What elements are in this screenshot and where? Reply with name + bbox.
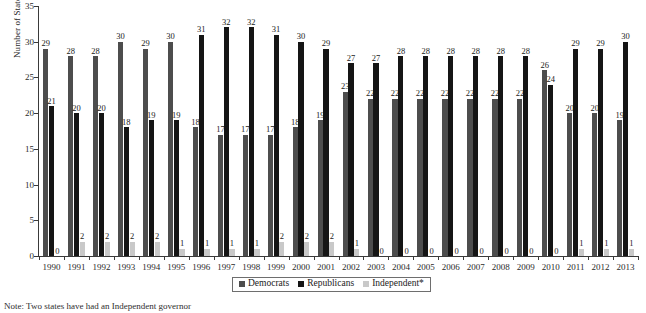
- bar-ind: 2: [279, 242, 284, 256]
- bar-ind: 2: [304, 242, 309, 256]
- legend-item-democrats: Democrats: [239, 279, 289, 289]
- bar-value-label: 26: [541, 61, 550, 70]
- bar-group: 29192: [139, 6, 164, 256]
- bar-value-label: 32: [222, 18, 231, 27]
- bar-value-label: 1: [629, 239, 633, 248]
- bar-group: 30191: [164, 6, 189, 256]
- bar-group: 28202: [64, 6, 89, 256]
- bar-value-label: 30: [166, 32, 175, 41]
- bar-rep: 24: [548, 85, 553, 256]
- bar-dem: 19: [617, 120, 622, 256]
- x-tick-label: 1997: [217, 263, 235, 272]
- x-tick-label: 2010: [542, 263, 560, 272]
- bar-value-label: 18: [122, 118, 131, 127]
- x-tick-mark: [388, 256, 389, 260]
- x-tick-label: 1996: [192, 263, 210, 272]
- bar-ind: 1: [254, 249, 259, 256]
- plot-area: Number of States 05101520253035 29210282…: [38, 6, 638, 262]
- bar-dem: 22: [442, 99, 447, 256]
- x-tick-label: 2004: [392, 263, 410, 272]
- x-tick-label: 2012: [592, 263, 610, 272]
- bar-value-label: 0: [504, 247, 508, 256]
- bar-value-label: 28: [472, 47, 481, 56]
- x-tick-label: 2001: [317, 263, 335, 272]
- bar-group: 20291: [588, 6, 613, 256]
- bar-value-label: 2: [130, 232, 134, 241]
- x-tick-mark: [613, 256, 614, 260]
- x-tick-label: 1992: [92, 263, 110, 272]
- bar-rep: 21: [49, 106, 54, 256]
- x-tick-label: 2009: [517, 263, 535, 272]
- bar-value-label: 0: [55, 247, 59, 256]
- bar-rep: 31: [199, 35, 204, 256]
- bar-value-label: 21: [47, 97, 56, 106]
- bar-value-label: 29: [596, 39, 605, 48]
- x-tick-label: 1995: [167, 263, 185, 272]
- bar-dem: 26: [542, 70, 547, 256]
- y-tick-label: 10: [16, 180, 34, 189]
- x-tick-mark: [538, 256, 539, 260]
- bar-rep: 32: [224, 27, 229, 256]
- bar-rep: 27: [348, 63, 353, 256]
- bar-ind: 2: [105, 242, 110, 256]
- bar-value-label: 31: [197, 25, 206, 34]
- legend-swatch-independent: [363, 281, 369, 287]
- bar-dem: 30: [118, 42, 123, 256]
- bar-dem: 29: [143, 49, 148, 256]
- bar-value-label: 28: [66, 47, 75, 56]
- bar-ind: 1: [179, 249, 184, 256]
- x-tick-label: 1991: [67, 263, 85, 272]
- legend-label-democrats: Democrats: [248, 279, 289, 289]
- bar-dem: 29: [43, 49, 48, 256]
- bar-rep: 30: [623, 42, 628, 256]
- x-tick-label: 1999: [267, 263, 285, 272]
- bar-dem: 22: [492, 99, 497, 256]
- bar-value-label: 0: [405, 247, 409, 256]
- bar-rep: 19: [174, 120, 179, 256]
- y-tick-label: 30: [16, 37, 34, 46]
- x-tick-mark: [114, 256, 115, 260]
- x-tick-mark: [588, 256, 589, 260]
- x-tick-mark: [214, 256, 215, 260]
- y-tick-label: 35: [16, 2, 34, 11]
- bar-rep: 28: [523, 56, 528, 256]
- x-tick-mark: [239, 256, 240, 260]
- bar-value-label: 2: [80, 232, 84, 241]
- x-tick-label: 2003: [367, 263, 385, 272]
- bar-group: 18302: [289, 6, 314, 256]
- bar-value-label: 0: [479, 247, 483, 256]
- x-tick-mark: [488, 256, 489, 260]
- bar-dem: 17: [268, 135, 273, 256]
- x-tick-mark: [438, 256, 439, 260]
- x-tick-label: 2007: [467, 263, 485, 272]
- bar-rep: 32: [249, 27, 254, 256]
- x-tick-label: 2011: [567, 263, 585, 272]
- chart-legend: Democrats Republicans Independent*: [232, 277, 431, 292]
- bar-group: 23271: [339, 6, 364, 256]
- bar-dem: 22: [517, 99, 522, 256]
- bar-group: 20291: [563, 6, 588, 256]
- x-tick-label: 2013: [617, 263, 635, 272]
- x-tick-mark: [289, 256, 290, 260]
- bar-value-label: 28: [91, 47, 100, 56]
- bar-ind: 1: [579, 249, 584, 256]
- bar-value-label: 30: [621, 32, 630, 41]
- bar-value-label: 29: [141, 39, 150, 48]
- bar-rep: 29: [573, 49, 578, 256]
- x-tick-mark: [189, 256, 190, 260]
- bar-rep: 28: [398, 56, 403, 256]
- bar-rep: 28: [473, 56, 478, 256]
- bar-dem: 30: [168, 42, 173, 256]
- bar-value-label: 1: [355, 239, 359, 248]
- bar-ind: 2: [130, 242, 135, 256]
- bar-dem: 17: [218, 135, 223, 256]
- bar-value-label: 29: [322, 39, 331, 48]
- x-tick-label: 1994: [142, 263, 160, 272]
- x-tick-mark: [89, 256, 90, 260]
- bar-dem: 22: [417, 99, 422, 256]
- bar-value-label: 2: [155, 232, 159, 241]
- legend-item-independent: Independent*: [363, 279, 424, 289]
- bar-value-label: 30: [297, 32, 306, 41]
- bar-value-label: 28: [447, 47, 456, 56]
- bar-value-label: 19: [147, 111, 156, 120]
